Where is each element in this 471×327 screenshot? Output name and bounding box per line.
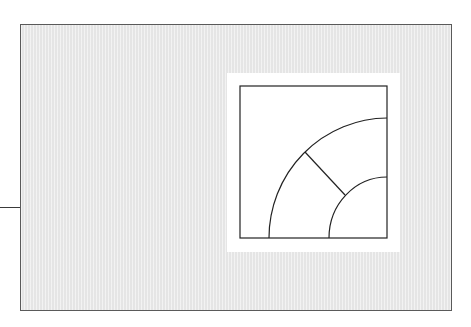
figure-stage: Quarter-circle arch tile detail bbox=[0, 0, 471, 327]
arch-tile-drawing bbox=[0, 0, 471, 327]
